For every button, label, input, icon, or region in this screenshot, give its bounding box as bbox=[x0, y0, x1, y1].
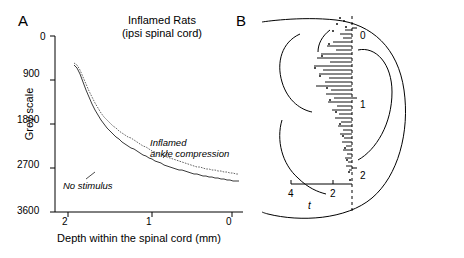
series-no-stimulus bbox=[74, 65, 239, 181]
histogram-bars bbox=[314, 30, 352, 170]
figure-container: A B Inflamed Rats (ipsi spinal cord) Gre… bbox=[0, 0, 464, 258]
plot-vector-layer bbox=[0, 0, 464, 258]
series-inflamed-ankle-compression bbox=[74, 63, 239, 174]
annotation-leader-nostim bbox=[86, 172, 95, 179]
